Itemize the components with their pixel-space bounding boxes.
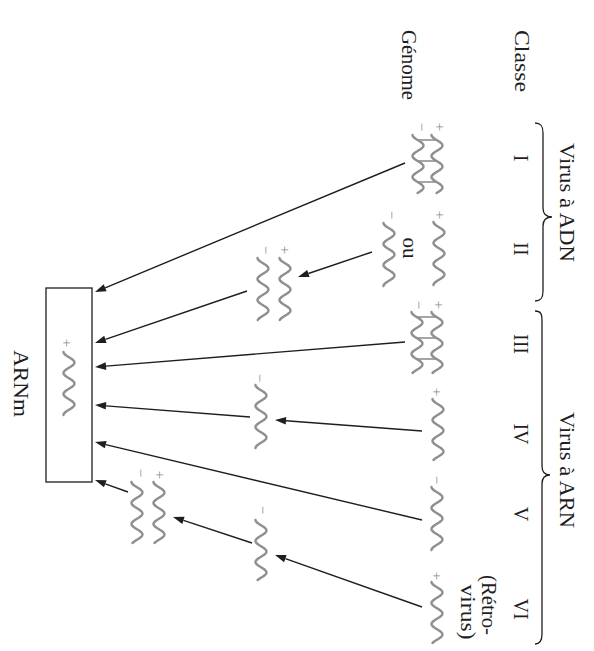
brace-virus-adn — [535, 123, 552, 301]
arrowhead-icon — [95, 402, 106, 410]
arrow-line — [105, 291, 247, 339]
sign-plus: + — [429, 388, 445, 396]
strand-minus — [256, 520, 267, 580]
class-vi-intermediate-double: − + — [132, 469, 169, 543]
strand-plus — [280, 258, 291, 320]
strand-plus — [434, 222, 445, 285]
class-ii-genome: + ou − — [384, 211, 449, 286]
arrow-class-iv-intermediate-to-arnm — [95, 402, 250, 417]
arrow-class-vi-double-to-arnm — [95, 480, 128, 492]
strand-plus — [432, 312, 443, 373]
strand-minus — [132, 482, 143, 543]
sign-minus: − — [411, 301, 427, 309]
strand-plus — [433, 399, 444, 460]
arnm-target: + ARNm — [10, 288, 92, 482]
arrow-line — [184, 520, 253, 543]
sign-minus: − — [414, 123, 430, 131]
arrowhead-icon — [95, 441, 107, 448]
sign-plus: + — [152, 471, 168, 479]
class-vi-note-line-1: (Rétro- — [477, 575, 500, 635]
sign-minus: − — [252, 374, 268, 382]
sign-minus: − — [258, 246, 274, 254]
arrow-class-vi-genome-to-intermediate — [275, 555, 422, 607]
strand-minus — [432, 487, 443, 550]
strand-plus — [64, 352, 75, 415]
arrow-class-iii-to-arnm — [95, 342, 405, 370]
class-iv-genome: + — [429, 388, 445, 460]
strand-minus — [258, 258, 269, 320]
strand-plus — [154, 482, 165, 543]
strand-plus — [432, 135, 443, 193]
group-label-virus-arn: Virus à ARN — [556, 412, 578, 528]
baltimore-classification-diagram: Classe Génome Virus à ADN Virus à ARN I … — [0, 0, 594, 651]
strand-minus — [412, 312, 423, 373]
arrow-line — [285, 559, 422, 607]
class-iv-intermediate: − — [252, 374, 268, 448]
sign-plus: + — [277, 246, 293, 254]
arrow-line — [286, 421, 422, 431]
group-virus-arn: Virus à ARN — [535, 311, 578, 644]
arrow-class-vi-intermediate-to-double — [173, 517, 252, 543]
arrowhead-icon — [275, 555, 287, 562]
group-label-virus-adn: Virus à ADN — [556, 143, 578, 262]
class-ii-intermediate: − + — [258, 246, 294, 320]
class-numeral-iv: IV — [510, 423, 532, 445]
sign-minus: − — [384, 211, 400, 219]
arrow-line — [105, 163, 405, 288]
sign-minus: − — [133, 469, 149, 477]
strand-plus — [432, 582, 443, 643]
class-v-genome: − — [429, 476, 445, 550]
arrow-class-i-to-arnm — [95, 163, 405, 292]
arrowhead-icon — [95, 480, 107, 487]
arrow-line — [106, 342, 405, 366]
arrowhead-icon — [275, 417, 286, 425]
or-label: ou — [399, 238, 421, 259]
sign-plus: + — [431, 301, 447, 309]
strand-minus — [384, 223, 395, 286]
class-vi-intermediate-minus: − — [255, 506, 271, 580]
sign-plus: + — [59, 339, 75, 347]
arrowhead-icon — [95, 362, 106, 370]
arrow-line — [308, 252, 372, 274]
sign-minus: − — [255, 506, 271, 514]
sign-plus: + — [429, 572, 445, 580]
arrow-class-ii-genome-to-intermediate — [298, 252, 372, 277]
class-vi-genome: + — [429, 572, 445, 643]
arnm-label: ARNm — [10, 350, 32, 417]
arnm-box — [46, 288, 92, 482]
arrowhead-icon — [95, 336, 107, 343]
brace-virus-arn — [535, 311, 550, 644]
arrowhead-icon — [298, 270, 310, 277]
genome-header: Génome — [398, 30, 420, 100]
class-iii-genome: − + — [411, 301, 447, 373]
strand-minus — [256, 385, 267, 448]
class-numeral-v: V — [510, 507, 532, 522]
sign-plus: + — [432, 123, 448, 131]
class-numeral-i: I — [510, 155, 532, 162]
class-numeral-iii: III — [510, 334, 532, 354]
arrow-class-ii-intermediate-to-arnm — [95, 291, 247, 343]
arrow-line — [105, 484, 128, 492]
arrowhead-icon — [95, 284, 107, 292]
class-i-genome: − + — [413, 123, 449, 193]
arrow-line — [106, 406, 250, 417]
arrow-class-iv-genome-to-intermediate — [275, 417, 422, 431]
sign-plus: + — [432, 211, 448, 219]
class-vi-note-line-2: virus) — [456, 585, 479, 640]
class-numeral-ii: II — [510, 242, 532, 255]
classe-header: Classe — [511, 30, 533, 92]
arrowhead-icon — [173, 517, 185, 524]
class-numeral-vi: VI — [510, 598, 532, 619]
group-virus-adn: Virus à ADN — [535, 123, 578, 301]
strand-minus — [413, 135, 424, 193]
sign-minus: − — [429, 476, 445, 484]
